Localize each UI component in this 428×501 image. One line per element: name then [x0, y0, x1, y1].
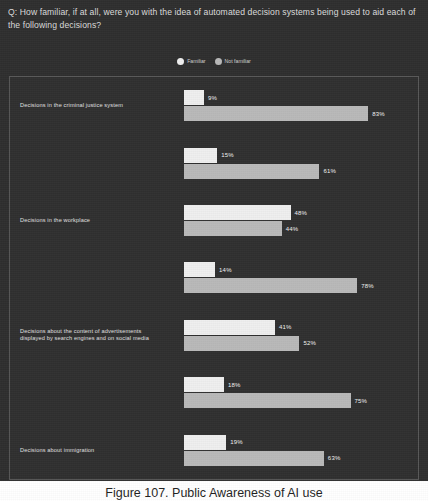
bar-not-familiar-row: 78%	[184, 278, 414, 293]
bar-familiar-bar[interactable]	[184, 148, 217, 163]
row-bars: 14%78%	[184, 249, 414, 306]
bar-not-familiar-row: 63%	[184, 451, 414, 466]
bar-not-familiar-row: 75%	[184, 393, 414, 408]
bar-familiar-bar[interactable]	[184, 377, 224, 392]
bar-not-familiar-value: 78%	[361, 283, 374, 289]
bar-not-familiar-value: 52%	[303, 340, 316, 346]
bar-familiar-value: 14%	[219, 267, 232, 273]
bar-familiar-value: 48%	[295, 210, 308, 216]
table-row: Decisions about claims for social suppor…	[10, 422, 418, 479]
table-row: Decisions in the criminal justice system…	[10, 77, 418, 134]
question-title: Q: How familiar, if at all, were you wit…	[8, 6, 416, 32]
bar-familiar-value: 9%	[208, 95, 217, 101]
bar-not-familiar-row: 44%	[184, 221, 414, 236]
bar-familiar-row: 18%	[184, 377, 414, 392]
bar-not-familiar-value: 75%	[355, 398, 368, 404]
bar-not-familiar-bar[interactable]	[184, 393, 351, 408]
bar-familiar-value: 19%	[230, 439, 243, 445]
bar-familiar-row: 48%	[184, 205, 414, 220]
row-label-line: Decisions in the criminal justice system	[20, 102, 123, 108]
row-bars: 19%63%	[184, 422, 414, 479]
table-row: Decisions about immigration14%78%	[10, 249, 418, 306]
bar-familiar-bar[interactable]	[184, 205, 291, 220]
table-row: Decisions in the workplace15%61%	[10, 134, 418, 191]
row-label: Decisions in the criminal justice system	[20, 102, 170, 110]
bar-familiar-row: 19%	[184, 435, 414, 450]
bar-familiar-bar[interactable]	[184, 90, 204, 105]
bar-not-familiar-bar[interactable]	[184, 451, 324, 466]
bar-not-familiar-value: 63%	[328, 455, 341, 461]
bar-familiar-row: 41%	[184, 320, 414, 335]
figure-caption: Figure 107. Public Awareness of AI use	[0, 483, 428, 501]
bar-familiar-bar[interactable]	[184, 435, 226, 450]
chart-legend: Familiar Not familiar	[0, 55, 428, 67]
figure-root: Q: How familiar, if at all, were you wit…	[0, 0, 428, 501]
bar-familiar-value: 41%	[279, 324, 292, 330]
table-row: Decisions about healthcare18%75%	[10, 364, 418, 421]
bar-familiar-value: 15%	[221, 152, 234, 158]
bar-familiar-row: 9%	[184, 90, 414, 105]
bar-not-familiar-bar[interactable]	[184, 336, 299, 351]
legend-item-familiar[interactable]: Familiar	[177, 58, 205, 65]
bar-familiar-bar[interactable]	[184, 320, 275, 335]
bar-not-familiar-value: 83%	[372, 111, 385, 117]
legend-label-familiar: Familiar	[187, 58, 205, 64]
bar-not-familiar-bar[interactable]	[184, 106, 368, 121]
bar-familiar-row: 14%	[184, 262, 414, 277]
bar-not-familiar-bar[interactable]	[184, 221, 282, 236]
row-bars: 9%83%	[184, 77, 414, 134]
bar-rows: Decisions in the criminal justice system…	[10, 77, 418, 479]
bar-familiar-bar[interactable]	[184, 262, 215, 277]
table-row: Decisions about access to financial serv…	[10, 307, 418, 364]
bar-not-familiar-row: 61%	[184, 164, 414, 179]
row-bars: 41%52%	[184, 307, 414, 364]
circle-swatch-icon	[215, 58, 222, 65]
legend-label-not-familiar: Not familiar	[225, 58, 251, 64]
bar-not-familiar-bar[interactable]	[184, 164, 319, 179]
bar-not-familiar-row: 52%	[184, 336, 414, 351]
row-bars: 18%75%	[184, 364, 414, 421]
bar-not-familiar-row: 83%	[184, 106, 414, 121]
table-row: Decisions about the content of advertise…	[10, 192, 418, 249]
bar-familiar-row: 15%	[184, 148, 414, 163]
legend-item-not-familiar[interactable]: Not familiar	[215, 58, 251, 65]
row-bars: 48%44%	[184, 192, 414, 249]
circle-swatch-icon	[177, 58, 184, 65]
bar-familiar-value: 18%	[228, 382, 241, 388]
plot-panel: Decisions in the criminal justice system…	[9, 76, 419, 480]
bar-not-familiar-bar[interactable]	[184, 278, 357, 293]
bar-not-familiar-value: 44%	[286, 226, 299, 232]
row-bars: 15%61%	[184, 134, 414, 191]
bar-not-familiar-value: 61%	[323, 168, 336, 174]
